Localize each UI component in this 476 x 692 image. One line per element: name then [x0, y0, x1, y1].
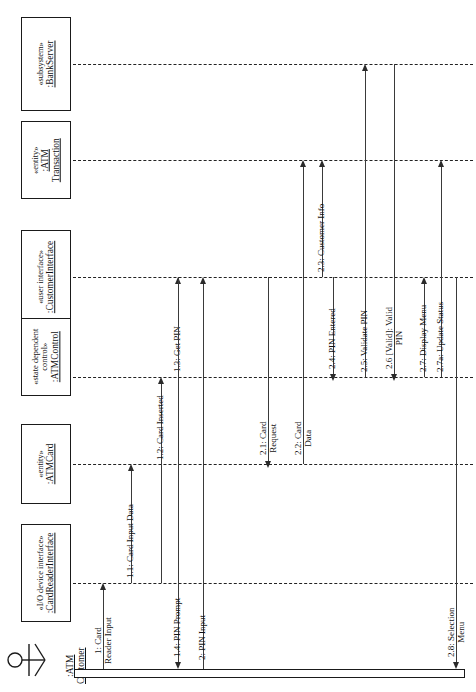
- sequence-diagram-canvas: «subsystem» :BankServer «entity» :ATM Tr…: [0, 0, 476, 692]
- lifeline-name2-atmtransaction: Transaction: [51, 138, 62, 182]
- lifeline-name-cardreaderinterface: :CardReaderInterface: [45, 533, 56, 614]
- lifeline-box-customerinterface[interactable]: «user interface» :CustomerInterface: [21, 230, 71, 324]
- lifeline-name-customerinterface: :CustomerInterface: [45, 241, 56, 313]
- lifeline-stereotype-bankserver: «subsystem»: [36, 41, 45, 88]
- message-label-1-1-text: 1.1: Card Input Data: [126, 504, 136, 578]
- actor-label: :ATM Customer: [65, 648, 86, 684]
- lifeline-name-atmcard: :ATMCard: [45, 444, 56, 485]
- message-arrowhead-2-2: [300, 160, 306, 167]
- lifeline-stereotype-atmcard: «entity»: [36, 444, 45, 485]
- message-label-2-3-text: 2.3: Customer Info: [317, 204, 327, 272]
- message-arrowhead-2-1: [265, 461, 271, 468]
- message-arrowhead-1: [100, 583, 106, 590]
- message-arrowhead-2-8: [453, 662, 459, 669]
- message-label-2-7a: 2.7a: Update Status: [436, 302, 446, 372]
- message-label-2-8-line2: Menu: [457, 608, 467, 658]
- message-label-2-2: 2.2: Card Data: [294, 422, 314, 456]
- actor-atm-customer[interactable]: :ATM Customer: [5, 634, 69, 686]
- message-label-2-6: 2.6 [Valid]: Valid PIN: [385, 307, 405, 369]
- message-arrowhead-2-4: [330, 374, 336, 381]
- message-label-2-1: 2.1: Card Request: [259, 422, 279, 456]
- lifeline-box-atmtransaction[interactable]: «entity» :ATM Transaction: [21, 121, 71, 199]
- message-label-2-4: 2.4: PIN Entered: [328, 308, 338, 369]
- message-label-2: 2: PIN Input: [198, 615, 208, 660]
- lifeline-box-bankserver[interactable]: «subsystem» :BankServer: [21, 17, 71, 111]
- lifeline-stereotype-atmcontrol: «state dependent: [31, 329, 40, 385]
- lifeline-name-bankserver: :BankServer: [45, 41, 56, 88]
- message-label-2-7a-text: 2.7a: Update Status: [436, 302, 446, 372]
- lifeline-box-cardreaderinterface[interactable]: «I/O device interface» :CardReaderInterf…: [21, 524, 71, 622]
- message-label-2-3: 2.3: Customer Info: [317, 204, 327, 272]
- message-label-1: 1: Card Reader Input: [94, 617, 114, 664]
- lifeline-box-atmcard[interactable]: «entity» :ATMCard: [21, 424, 71, 504]
- lifeline-atmtransaction: [73, 160, 473, 161]
- lifeline-name-atmtransaction: :ATM: [40, 138, 51, 182]
- message-label-2-5: 2.5: Validate PIN: [360, 310, 370, 372]
- lifeline-stereotype2-atmcontrol: control»: [41, 329, 50, 385]
- message-label-2-6-line2: PIN: [395, 307, 405, 369]
- message-arrowhead-2: [200, 277, 206, 284]
- message-arrowhead-1-4: [175, 662, 181, 669]
- message-line-2-8[interactable]: [456, 277, 457, 662]
- message-label-2-4-text: 2.4: PIN Entered: [328, 308, 338, 369]
- lifeline-atmcontrol: [73, 377, 473, 378]
- message-label-2-5-text: 2.5: Validate PIN: [360, 310, 370, 372]
- message-arrowhead-1-1: [128, 464, 134, 471]
- message-arrowhead-2-3: [319, 160, 325, 167]
- message-line-2-2[interactable]: [303, 163, 304, 464]
- message-label-2-8: 2.8: Selection Menu: [447, 608, 467, 658]
- message-label-2-2-line2: Data: [304, 422, 314, 456]
- message-arrowhead-2-7a: [438, 160, 444, 167]
- message-label-2-7-text: 2.7: Display Menu: [419, 305, 429, 372]
- message-label-1-1: 1.1: Card Input Data: [126, 504, 136, 578]
- message-arrowhead-2-6: [391, 374, 397, 381]
- actor-activation-bar: [74, 669, 465, 678]
- message-line-2[interactable]: [203, 280, 204, 669]
- message-label-1-2-text: 1.2: Card Inserted: [156, 395, 166, 460]
- message-label-1-line2: Reader Input: [104, 617, 114, 664]
- message-label-2-7: 2.7: Display Menu: [419, 305, 429, 372]
- lifeline-stereotype-cardreaderinterface: «I/O device interface»: [36, 533, 45, 614]
- actor-name2: Customer: [76, 648, 87, 684]
- message-label-1-2: 1.2: Card Inserted: [156, 395, 166, 460]
- message-label-1-4-text: 1.4: PIN Prompt: [173, 598, 183, 657]
- message-label-2-1-line2: Request: [269, 422, 279, 456]
- lifeline-cardreaderinterface: [73, 583, 473, 584]
- message-arrowhead-2-5: [362, 64, 368, 71]
- actor-name: :ATM: [65, 648, 76, 684]
- lifeline-stereotype-atmtransaction: «entity»: [31, 138, 40, 182]
- message-label-1-4: 1.4: PIN Prompt: [173, 598, 183, 657]
- lifeline-customerinterface: [73, 277, 473, 278]
- lifeline-name-atmcontrol: :ATMControl: [50, 329, 61, 385]
- message-arrowhead-1-2: [158, 377, 164, 384]
- lifeline-box-atmcontrol[interactable]: «state dependent control» :ATMControl: [21, 318, 71, 396]
- message-label-2-text: 2: PIN Input: [198, 615, 208, 660]
- lifeline-bankserver: [73, 64, 473, 65]
- stick-figure-actor-icon: [5, 634, 51, 686]
- message-arrowhead-2-7: [421, 277, 427, 284]
- lifeline-stereotype-customerinterface: «user interface»: [36, 241, 45, 313]
